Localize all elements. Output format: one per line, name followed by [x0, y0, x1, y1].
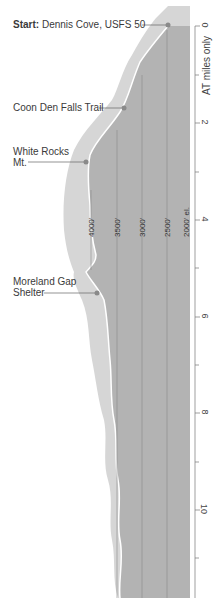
label-moreland-line2: Shelter: [13, 287, 45, 299]
label-start: Start: Dennis Cove, USFS 50: [13, 19, 145, 31]
tick-label-6: 6: [200, 313, 210, 318]
elevation-profile-chart: [0, 0, 224, 598]
tick-label-2: 2: [200, 119, 210, 124]
marker-moreland-gap: [95, 291, 100, 296]
elev-label-2500: 2500': [163, 218, 172, 237]
label-start-text: Dennis Cove, USFS 50: [42, 19, 145, 30]
marker-white-rocks: [84, 160, 89, 165]
label-start-prefix: Start:: [13, 19, 39, 30]
elev-label-4000: 4000': [87, 218, 96, 237]
axis-title: AT miles only: [201, 36, 212, 95]
label-coon-den: Coon Den Falls Trail: [13, 102, 104, 114]
elev-label-3000: 3000': [138, 218, 147, 237]
tick-label-8: 8: [200, 409, 210, 414]
tick-label-10: 10: [199, 504, 209, 514]
label-white-rocks-line2: Mt.: [13, 157, 27, 169]
elev-label-2000: 2000' el.: [182, 207, 191, 237]
marker-dennis-cove: [166, 23, 171, 28]
tick-label-0: 0: [200, 22, 210, 27]
elev-label-3500: 3500': [113, 218, 122, 237]
tick-label-4: 4: [200, 216, 210, 221]
marker-coon-den: [122, 106, 127, 111]
